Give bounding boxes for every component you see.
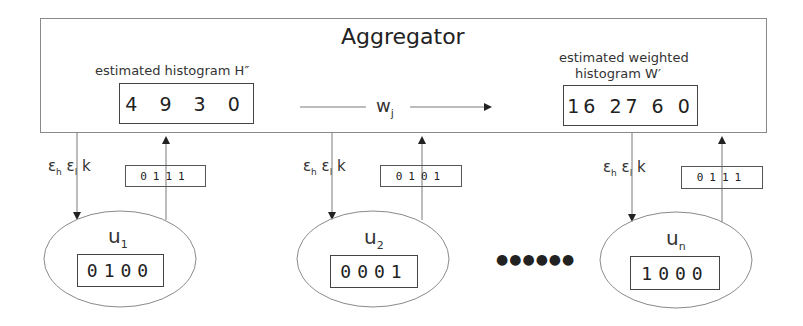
user-2-params: εh εl k: [303, 157, 346, 177]
user-2-report: 0101: [380, 165, 462, 187]
user-1-report: 0111: [125, 165, 206, 187]
user-2-name: u2: [364, 225, 384, 252]
estimated-histogram-values: 4 9 3 0: [119, 83, 254, 124]
aggregator-title: Aggregator: [341, 24, 465, 49]
weighted-histogram-label-line1: estimated weighted: [559, 49, 689, 66]
user-1-vector: 0100: [77, 254, 164, 287]
user-n-params: εh εl k: [603, 158, 646, 178]
more-users-ellipsis: ●●●●●●: [496, 251, 575, 267]
user-n-vector: 1000: [630, 256, 720, 290]
weighted-histogram-label-line2: histogram W′: [575, 65, 661, 82]
user-n-report: 0111: [681, 166, 763, 189]
user-n-name: un: [666, 226, 686, 253]
weighted-histogram-values: 16 27 6 0: [563, 85, 698, 126]
user-2-vector: 0001: [330, 255, 418, 288]
estimated-histogram-label: estimated histogram H″: [95, 62, 249, 79]
weight-label: wj: [376, 95, 394, 120]
user-1-params: εh εl k: [48, 157, 91, 177]
user-1-name: u1: [108, 224, 128, 251]
